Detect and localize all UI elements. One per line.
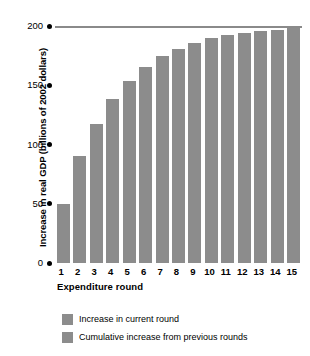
bar — [123, 81, 136, 263]
legend-label: Increase in current round — [79, 314, 179, 325]
y-axis-tick-marker — [47, 201, 52, 206]
bar — [205, 38, 218, 263]
chart-legend: Increase in current roundCumulative incr… — [62, 311, 248, 347]
bar — [139, 67, 152, 263]
bar — [287, 28, 300, 263]
x-axis-tick-label: 8 — [168, 265, 185, 278]
x-axis-tick-label: 4 — [102, 265, 119, 278]
legend-swatch — [62, 332, 73, 343]
x-axis-tick-label: 14 — [267, 265, 284, 278]
bar — [156, 56, 169, 263]
y-axis-tick-label: 200 — [27, 20, 43, 32]
y-axis-tick: 0 — [0, 257, 55, 269]
legend-item: Cumulative increase from previous rounds — [62, 329, 248, 345]
bar — [221, 35, 234, 263]
y-axis-tick: 200 — [0, 20, 55, 32]
y-axis-tick: 150 — [0, 79, 55, 91]
bar-chart-figure: Increase in real GDP (billions of 2002 d… — [0, 0, 310, 356]
bar — [57, 204, 70, 263]
x-axis-tick-label: 1 — [53, 265, 70, 278]
x-axis-tick-label: 5 — [119, 265, 136, 278]
y-axis-tick-label: 100 — [27, 139, 43, 151]
x-axis-title: Expenditure round — [57, 281, 143, 292]
x-axis-ticks: 123456789101112131415 — [55, 265, 302, 279]
x-axis-tick-label: 11 — [217, 265, 234, 278]
y-axis-tick-marker — [47, 261, 52, 266]
bars-layer — [55, 26, 302, 263]
bar — [90, 124, 103, 263]
y-axis-tick: 50 — [0, 198, 55, 210]
legend-item: Increase in current round — [62, 311, 248, 327]
bar — [238, 33, 251, 263]
x-axis-tick-label: 3 — [86, 265, 103, 278]
bar — [271, 30, 284, 263]
legend-label: Cumulative increase from previous rounds — [79, 332, 248, 343]
bar — [106, 99, 119, 263]
x-axis-tick-label: 15 — [283, 265, 300, 278]
y-axis-tick-label: 150 — [27, 79, 43, 91]
bar — [188, 43, 201, 263]
y-axis-tick-marker — [47, 24, 52, 29]
plot-area — [55, 26, 302, 263]
y-axis-tick-label: 50 — [32, 198, 43, 210]
legend-swatch — [62, 314, 73, 325]
bar — [172, 49, 185, 263]
x-axis-tick-label: 9 — [184, 265, 201, 278]
x-axis-tick-label: 2 — [69, 265, 86, 278]
x-axis-tick-label: 6 — [135, 265, 152, 278]
x-axis-tick-label: 12 — [234, 265, 251, 278]
y-axis-tick-marker — [47, 83, 52, 88]
y-axis-tick-label: 0 — [38, 257, 43, 269]
x-axis-tick-label: 10 — [201, 265, 218, 278]
bar — [73, 156, 86, 263]
x-axis-tick-label: 7 — [152, 265, 169, 278]
y-axis-tick-marker — [47, 142, 52, 147]
bar — [254, 31, 267, 263]
y-axis-tick: 100 — [0, 139, 55, 151]
x-axis-tick-label: 13 — [250, 265, 267, 278]
